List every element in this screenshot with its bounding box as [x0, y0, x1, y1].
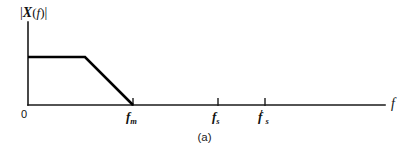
- tick-label-fs: fs: [212, 110, 220, 123]
- tick-label-fm: fm: [126, 110, 137, 123]
- tick-label-fs-prime: f′s: [258, 110, 269, 123]
- y-axis-label: |X(f)|: [20, 6, 47, 20]
- origin-label: 0: [21, 109, 27, 120]
- tick-label-fs-prime-mark: ′: [260, 107, 263, 119]
- x-axis-label: f: [391, 97, 395, 111]
- tick-label-fs-subscript: s: [216, 116, 219, 126]
- y-axis-label-magnitude: X: [23, 5, 32, 20]
- y-axis-label-bar-right: |: [44, 5, 47, 20]
- spectrum-envelope-curve: [28, 57, 133, 105]
- figure-container: |X(f)| 0 fm fs f′s f (a): [0, 0, 409, 157]
- tick-label-fs-prime-subscript: s: [265, 116, 268, 126]
- figure-caption: (a): [0, 132, 409, 144]
- tick-label-fm-subscript: m: [130, 116, 137, 126]
